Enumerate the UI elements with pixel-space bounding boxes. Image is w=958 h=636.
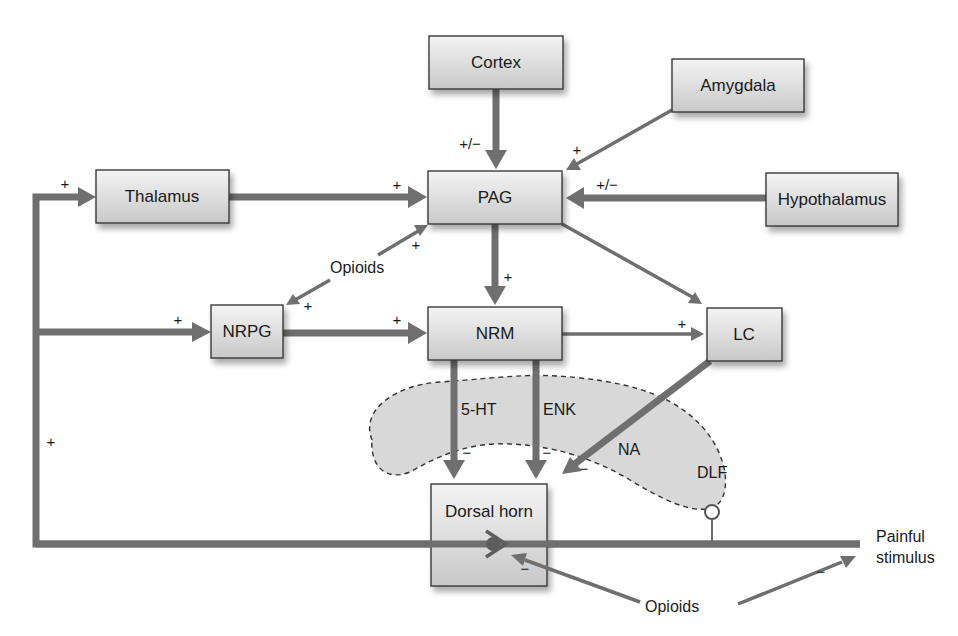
label-painful: Painful [876, 528, 925, 545]
sign-opioids-stimulus: − [817, 563, 826, 580]
arrow-pag-lc [562, 224, 702, 304]
sign-feedback-thalamus: + [61, 175, 70, 192]
label-na: NA [618, 441, 641, 458]
arrow-amygdala-pag [566, 110, 672, 170]
sign-thalamus-pag: + [393, 176, 402, 193]
label-opioids-upper: Opioids [330, 259, 384, 276]
sign-na-dh: − [580, 460, 589, 477]
sign-cortex-pag: +/− [459, 135, 481, 152]
sign-nrpg-nrm: + [393, 311, 402, 328]
sign-feedback-vertical: + [47, 433, 56, 450]
sign-amygdala-pag: + [573, 141, 582, 158]
label-thalamus: Thalamus [125, 187, 200, 206]
pain-modulation-diagram: Cortex Amygdala Thalamus PAG Hypothalamu… [0, 0, 958, 636]
label-dorsal-horn: Dorsal horn [445, 502, 533, 521]
arrows-opioids-lower [511, 553, 856, 604]
label-5ht: 5-HT [461, 401, 497, 418]
label-dlf: DLF [697, 464, 727, 481]
sign-nrm-lc: + [678, 315, 687, 332]
sign-hypothalamus-pag: +/− [596, 176, 618, 193]
label-amygdala: Amygdala [700, 76, 776, 95]
label-opioids-lower: Opioids [645, 598, 699, 615]
arrow-nrpg-nrm [283, 322, 427, 344]
label-hypothalamus: Hypothalamus [778, 190, 887, 209]
sign-feedback-nrpg: + [174, 311, 183, 328]
sign-pag-nrm: + [504, 268, 513, 285]
sign-enk-dh: − [543, 444, 552, 461]
sign-opioids-pag: + [412, 236, 421, 253]
sign-opioids-synapse: − [521, 560, 530, 577]
nociceptor-terminal-icon [705, 505, 719, 519]
label-pag: PAG [478, 188, 513, 207]
arrow-cortex-pag [485, 89, 507, 169]
label-lc: LC [733, 325, 755, 344]
label-enk: ENK [543, 401, 576, 418]
arrow-pag-nrm [484, 224, 506, 305]
label-cortex: Cortex [471, 53, 522, 72]
sign-5ht-dh: − [463, 444, 472, 461]
label-nrpg: NRPG [222, 322, 271, 341]
label-stimulus: stimulus [876, 549, 935, 566]
label-nrm: NRM [476, 324, 515, 343]
sign-opioids-nrpg: + [304, 297, 313, 314]
